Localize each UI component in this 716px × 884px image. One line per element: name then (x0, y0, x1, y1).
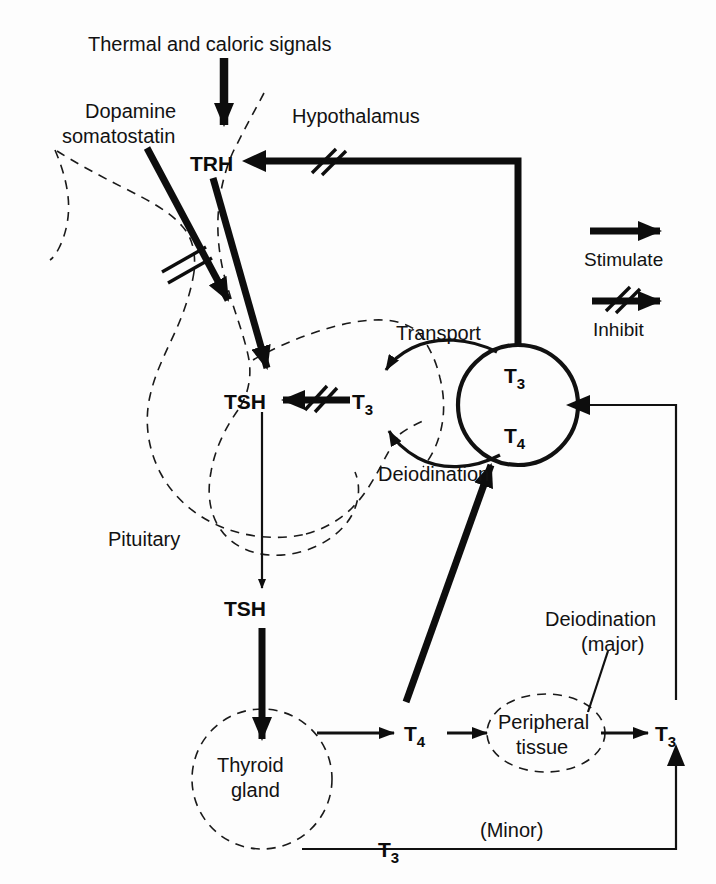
t3-pituitary-sub: 3 (365, 401, 373, 418)
deiodination-pointer-dashed (400, 421, 423, 434)
dopamine-inhibit-slash-2 (168, 258, 212, 283)
t3-pituitary-label: T3 (352, 390, 373, 418)
t4-secreted-base: T (404, 722, 417, 745)
pool-to-trh-feedback-line[interactable] (266, 161, 518, 345)
peripheral-tissue-outline (487, 694, 605, 772)
t4-pool-base: T (504, 424, 517, 447)
transport-arc (386, 340, 497, 370)
pool-to-trh-arrowhead (242, 150, 266, 172)
t4-pool-sub: 4 (517, 435, 526, 452)
thermal-caloric-label: Thermal and caloric signals (88, 33, 331, 55)
t3-pool-base: T (504, 364, 517, 387)
peripheral-tissue-label-line2: tissue (516, 736, 568, 758)
hypothalamus-label: Hypothalamus (292, 105, 420, 127)
thyroid-gland-label-line2: gland (231, 779, 280, 801)
t3-to-pool-feedback-line[interactable] (590, 405, 676, 700)
t3-peripheral-sub: 3 (668, 733, 676, 750)
deiodination-arc (389, 431, 500, 467)
tsh-secreted-label: TSH (224, 597, 266, 620)
diagram-canvas: Thermal and caloric signals Dopamine som… (0, 0, 716, 884)
dopamine-inhibit-slash-1 (162, 247, 206, 272)
t4-pool-label: T4 (504, 424, 526, 452)
pituitary-outline (209, 410, 358, 555)
tsh-pituitary-label: TSH (224, 390, 266, 413)
dopamine-label: Dopamine (85, 100, 176, 122)
pool-overlap-dashed (418, 332, 444, 467)
minor-label: (Minor) (480, 819, 543, 841)
legend-inhibit-label: Inhibit (593, 319, 644, 340)
pituitary-label: Pituitary (108, 528, 180, 550)
t3-peripheral-label: T3 (655, 722, 676, 750)
t3-peripheral-base: T (655, 722, 668, 745)
trh-label: TRH (190, 152, 233, 175)
deiodination-pool-label: Deiodination (378, 463, 489, 485)
hypothalamus-right-sweep (253, 320, 418, 360)
hypothalamus-outline (218, 93, 264, 410)
hypothalamus-top-sweep (57, 151, 195, 272)
t3-thyroid-sub: 3 (391, 849, 399, 866)
deiodination-major-label-line1: Deiodination (545, 608, 656, 630)
t3-thyroid-base: T (378, 838, 391, 861)
hypothalamus-left-lobe (50, 150, 69, 260)
t3-pool-sub: 3 (517, 375, 525, 392)
legend-stimulate-label: Stimulate (584, 249, 663, 270)
deiodination-major-pointer (588, 651, 608, 712)
peripheral-tissue-label-line1: Peripheral (498, 711, 589, 733)
t3-pituitary-base: T (352, 390, 365, 413)
trh-to-tsh-arrow[interactable] (213, 178, 267, 368)
t3-pool-label: T3 (504, 364, 525, 392)
t4-secreted-sub: 4 (417, 733, 426, 750)
transport-label: Transport (396, 322, 481, 344)
thyroid-gland-label-line1: Thyroid (217, 754, 284, 776)
deiodination-major-label-line2: (major) (581, 633, 644, 655)
somatostatin-label: somatostatin (62, 125, 175, 147)
t4-to-pool-arrow[interactable] (406, 465, 491, 702)
diagram-svg: Thermal and caloric signals Dopamine som… (0, 0, 716, 884)
t4-secreted-label: T4 (404, 722, 426, 750)
t3-thyroid-label: T3 (378, 838, 399, 866)
